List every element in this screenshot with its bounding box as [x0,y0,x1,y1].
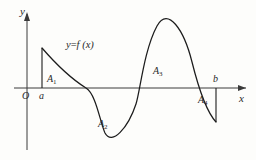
region-label-a1: A1 [47,74,57,84]
x-axis-label: x [239,93,244,104]
function-curve [42,19,216,138]
region-label-a3: A3 [153,66,163,76]
region-a1-index: 1 [53,78,57,86]
region-a4-index: 4 [204,99,208,107]
region-label-a2: A2 [98,119,108,129]
origin-label: O [22,91,29,101]
lower-limit-label-a: a [39,91,44,101]
region-label-a4: A4 [198,95,208,105]
upper-limit-label-b: b [213,74,218,84]
y-axis-label: y [20,6,25,17]
region-a3-index: 3 [159,70,163,78]
figure-container: y x O a b y=f (x) A1 A2 A3 A4 [0,0,256,160]
curve-equation-label: y=f (x) [66,40,94,51]
curve-equation-rhs: f (x) [77,39,94,50]
x-axis-arrowhead [238,85,246,91]
region-a2-index: 2 [104,123,108,131]
